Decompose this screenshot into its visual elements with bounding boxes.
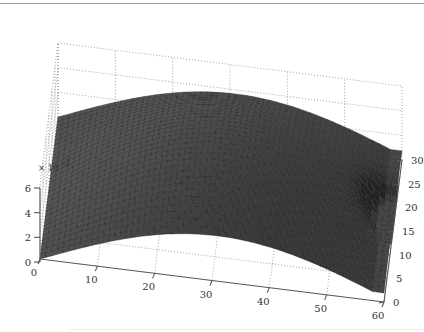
surface-facet	[199, 124, 205, 128]
surface-facet	[149, 228, 155, 236]
surface-facet	[151, 207, 157, 215]
surface-facet	[201, 117, 207, 121]
surface-facet	[103, 235, 109, 243]
surface-facet	[177, 165, 183, 172]
surface-facet	[198, 133, 204, 138]
z-exponent-power: -3	[62, 158, 70, 168]
surface-facet	[247, 226, 253, 235]
surface-facet	[181, 134, 187, 139]
surface-facet	[198, 183, 204, 190]
surface-facet	[243, 210, 249, 219]
surface-facet	[126, 231, 132, 239]
surface-facet	[184, 153, 190, 159]
surface-facet	[215, 138, 221, 143]
surface-facet	[200, 96, 206, 98]
surface-facet	[205, 124, 211, 128]
x-tick-label: 50	[314, 303, 327, 314]
surface-facet	[375, 265, 381, 271]
surface-facet	[381, 266, 387, 272]
surface-facet	[211, 121, 217, 125]
surface-facet	[189, 164, 195, 170]
surface-facet	[200, 170, 206, 177]
surface-facet	[201, 114, 207, 117]
surface-facet	[150, 214, 156, 222]
surface-facet	[207, 111, 213, 114]
surface-facet	[202, 111, 208, 114]
surface-facet	[160, 227, 166, 235]
surface-facet	[230, 161, 236, 168]
surface-facet	[202, 108, 208, 111]
surface-facet	[220, 199, 226, 207]
surface-facet	[206, 227, 212, 235]
surface-facet	[378, 210, 384, 216]
surface-facet	[381, 261, 387, 267]
surface-facet	[188, 171, 194, 178]
surface-facet	[217, 165, 223, 172]
surface-facet	[208, 212, 214, 220]
surface-facet	[174, 205, 180, 212]
surface-facet	[232, 194, 238, 202]
surface-facet	[205, 177, 211, 184]
surface-facet	[181, 184, 187, 191]
surface-facet	[214, 108, 220, 111]
surface-facet	[203, 142, 209, 147]
surface-facet	[213, 213, 219, 221]
surface-facet	[179, 204, 185, 211]
surface-facet	[191, 142, 197, 148]
surface-facet	[192, 137, 198, 142]
surface-facet	[236, 224, 242, 233]
surface-facet	[229, 167, 235, 174]
surface-facet	[204, 100, 210, 102]
surface-facet	[115, 233, 121, 241]
surface-facet	[194, 121, 200, 125]
surface-facet	[208, 147, 214, 153]
surface-facet	[180, 138, 186, 144]
surface-facet	[172, 160, 178, 167]
surface-facet	[188, 125, 194, 130]
surface-facet	[220, 143, 226, 149]
surface-facet	[132, 223, 138, 231]
surface-facet	[173, 154, 179, 160]
surface-facet	[179, 148, 185, 154]
surface-facet	[195, 158, 201, 164]
surface-facet	[229, 230, 235, 239]
surface-facet	[186, 138, 192, 143]
surface-facet	[156, 213, 162, 221]
surface-facet	[223, 172, 229, 179]
surface-facet	[221, 134, 227, 139]
gridline	[58, 43, 402, 86]
surface-facet	[195, 117, 201, 121]
surface-facet	[224, 229, 230, 238]
surface-facet	[187, 183, 193, 190]
surface-facet	[146, 201, 152, 209]
x-tick	[267, 288, 269, 293]
surface-facet	[197, 142, 203, 147]
surface-facet	[185, 204, 191, 211]
surface-facet	[180, 197, 186, 204]
surface-facet	[377, 215, 383, 220]
surface-facet	[237, 202, 243, 210]
surface-facet	[200, 121, 206, 125]
surface-facet	[382, 220, 388, 225]
y-tick-label: 30	[411, 155, 424, 166]
surface-plot: 01020304050600510152025300246× 10-3	[0, 0, 424, 332]
surface-facet	[392, 187, 398, 198]
surface-facet	[202, 212, 208, 220]
surface-facet	[196, 111, 202, 114]
surface-facet	[205, 98, 211, 100]
surface-facet	[218, 228, 224, 236]
surface-facet	[211, 96, 217, 98]
surface-facet	[176, 177, 182, 184]
surface-facet	[226, 200, 232, 208]
surface-facet	[246, 234, 252, 243]
surface-facet	[207, 220, 213, 228]
surface-facet	[138, 229, 144, 237]
surface-facet	[252, 235, 258, 244]
surface-facet	[211, 177, 217, 184]
surface-facet	[204, 102, 210, 105]
surface-facet	[120, 232, 126, 240]
surface-facet	[210, 128, 216, 133]
surface-facet	[189, 158, 195, 164]
surface-facet	[200, 94, 206, 96]
surface-facet	[182, 177, 188, 184]
